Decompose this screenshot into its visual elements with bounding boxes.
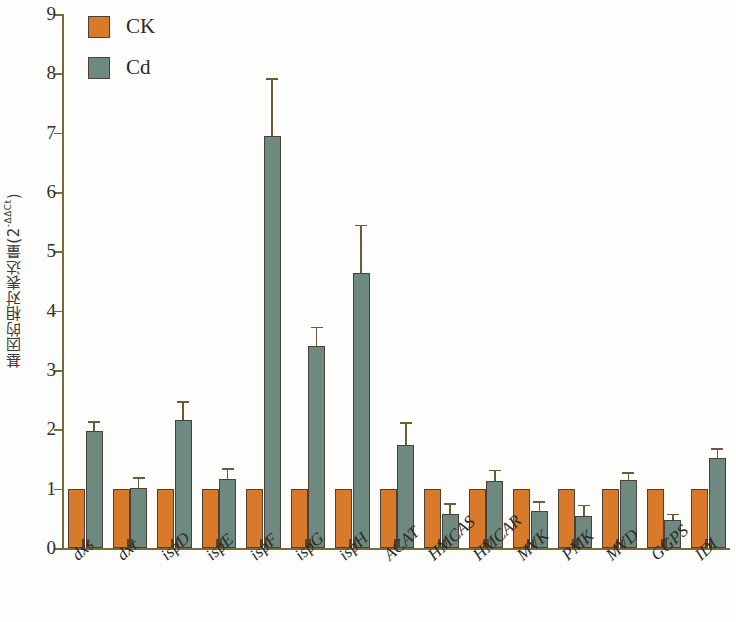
bar-group [467, 14, 506, 548]
y-tick-label: 1 [47, 478, 57, 500]
legend-item-ck[interactable]: CK [88, 14, 198, 39]
x-axis-labels: dxsdxrispDispEispFispGispHACATHMCASHMCAR… [62, 550, 730, 622]
bar-group [289, 14, 328, 548]
gene-expression-bar-chart: 基因的相对表达量(2-ΔΔCt) 0123456789 CKCd dxsdxri… [0, 0, 736, 622]
bar-dxs-Cd[interactable] [86, 431, 103, 548]
bar-ispD-Cd[interactable] [175, 420, 192, 548]
y-tick-label: 0 [47, 537, 57, 559]
bar-group [200, 14, 239, 548]
bar-group [600, 14, 639, 548]
error-bar-cap [533, 501, 545, 503]
y-axis-label-container: 基因的相对表达量(2-ΔΔCt) [0, 0, 26, 560]
error-bar-ispH-Cd [360, 225, 362, 274]
error-bar-cap [622, 472, 634, 474]
legend-item-cd[interactable]: Cd [88, 55, 198, 80]
error-bar-cap [133, 477, 145, 479]
error-bar-cap [88, 421, 100, 423]
y-tick-label: 3 [47, 359, 57, 381]
legend-swatch-cd [88, 57, 110, 79]
bar-ispF-Cd[interactable] [264, 136, 281, 548]
error-bar-cap [444, 503, 456, 505]
y-tick-label: 7 [47, 122, 57, 144]
error-bar-cap [667, 514, 679, 516]
error-bar-cap [578, 505, 590, 507]
error-bar-cap [400, 422, 412, 424]
y-tick-label: 8 [47, 62, 57, 84]
error-bar-ACAT-Cd [405, 422, 407, 445]
bar-IDI-Cd[interactable] [709, 458, 726, 548]
error-bar-cap [355, 225, 367, 227]
bar-group [244, 14, 283, 548]
legend-label: CK [126, 14, 155, 39]
error-bar-ispG-Cd [316, 327, 318, 347]
error-bar-cap [266, 78, 278, 80]
bar-group [689, 14, 728, 548]
error-bar-ispD-Cd [182, 401, 184, 421]
y-tick-label: 2 [47, 418, 57, 440]
bar-group [556, 14, 595, 548]
y-tick-label: 6 [47, 181, 57, 203]
bar-ispG-Cd[interactable] [308, 346, 325, 548]
y-tick-label: 5 [47, 240, 57, 262]
error-bar-cap [489, 470, 501, 472]
y-axis-label-superscript: -ΔΔCt [3, 199, 13, 227]
legend-label: Cd [126, 55, 151, 80]
bar-group [333, 14, 372, 548]
bar-group [511, 14, 550, 548]
y-tick-label: 4 [47, 300, 57, 322]
error-bar-cap [177, 401, 189, 403]
error-bar-ispF-Cd [271, 78, 273, 136]
y-axis-label-base: 基因的相对表达量(2 [5, 227, 23, 367]
bar-group [645, 14, 684, 548]
bar-ispH-Cd[interactable] [353, 273, 370, 548]
bar-group [422, 14, 461, 548]
error-bar-cap [311, 327, 323, 329]
error-bar-cap [222, 468, 234, 470]
legend: CKCd [88, 14, 198, 96]
bar-group [378, 14, 417, 548]
error-bar-cap [711, 448, 723, 450]
y-axis-label: 基因的相对表达量(2-ΔΔCt) [3, 193, 24, 368]
y-axis-label-tail: ) [5, 193, 23, 199]
y-tick-label: 9 [47, 3, 57, 25]
legend-swatch-ck [88, 16, 110, 38]
